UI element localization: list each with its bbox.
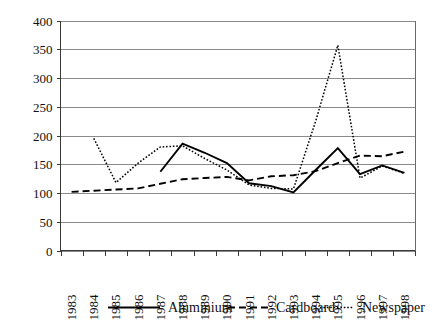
series-line-aluminium	[160, 144, 404, 193]
chart-canvas: 050100150200250300350400 198319841985198…	[0, 0, 430, 329]
legend-label-aluminium: Aluminium	[168, 300, 233, 315]
y-tick-label: 0	[46, 244, 53, 259]
legend-label-newspaper: Newspaper	[362, 300, 425, 315]
y-tick-label: 150	[33, 157, 53, 172]
y-tick-labels: 050100150200250300350400	[33, 14, 53, 259]
y-tick-label: 100	[33, 186, 53, 201]
y-tick-label: 50	[40, 215, 53, 230]
series-lines-group	[72, 45, 405, 192]
series-line-newspaper	[94, 45, 405, 189]
y-tick-label: 250	[33, 100, 53, 115]
gridlines-group	[61, 22, 416, 252]
x-tick-label: 1984	[86, 294, 101, 321]
line-chart: 050100150200250300350400 198319841985198…	[0, 0, 430, 329]
y-tick-label: 400	[33, 14, 53, 29]
plot-frame	[61, 21, 416, 251]
series-line-cardboard	[72, 152, 405, 192]
y-tick-label: 300	[33, 71, 53, 86]
legend-label-cardboard: Cardboard	[276, 300, 335, 315]
x-tick-label: 1983	[64, 295, 79, 321]
y-tick-label: 200	[33, 129, 53, 144]
y-tick-label: 350	[33, 42, 53, 57]
